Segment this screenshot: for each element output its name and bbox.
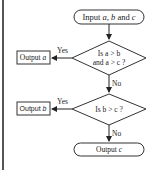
- output-b-box: Output b: [17, 102, 50, 115]
- svg-text:Input a, b and c: Input a, b and c: [82, 12, 135, 22]
- svg-text:Is a > b: Is a > b: [98, 49, 121, 58]
- output-a-box: Output a: [17, 51, 50, 64]
- no-label: No: [112, 129, 121, 138]
- end-terminator: Output c: [74, 143, 144, 156]
- svg-text:Output c: Output c: [96, 145, 123, 154]
- decision-b-greater-c: Is b > c ?: [72, 94, 146, 125]
- svg-text:Output b: Output b: [20, 105, 47, 113]
- yes-label: Yes: [57, 97, 68, 106]
- svg-text:and a > c ?: and a > c ?: [93, 58, 126, 67]
- svg-text:Output a: Output a: [20, 53, 47, 62]
- start-terminator: Input a, b and c: [74, 10, 144, 24]
- svg-text:Is b > c ?: Is b > c ?: [95, 105, 123, 114]
- yes-label: Yes: [57, 46, 68, 55]
- flowchart: Input a, b and c Is a > b and a > c ? Ye…: [0, 0, 153, 170]
- decision-a-greatest: Is a > b and a > c ?: [72, 41, 146, 75]
- no-label: No: [112, 79, 121, 88]
